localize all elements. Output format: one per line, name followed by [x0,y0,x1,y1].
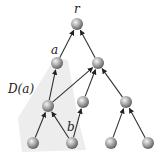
node-n5 [120,96,132,108]
diagram-svg: r a b D(a) [0,0,160,160]
edge-l3-n5 [113,109,124,138]
node-n2 [92,57,104,69]
node-n3 [42,100,54,112]
edge-l4-n5 [129,108,145,138]
node-b [66,137,78,149]
edge-n2-r [80,30,95,58]
node-n4 [77,96,89,108]
dag-diagram: r a b D(a) [0,0,160,160]
node-l4 [142,137,154,149]
edge-n4-n2 [85,70,95,97]
node-l1 [27,137,39,149]
node-label-a: a [51,43,58,57]
node-r [71,18,83,30]
edge-a-r [60,30,74,57]
node-a [51,57,63,69]
node-label-r: r [74,2,81,16]
node-label-b: b [67,120,75,134]
edge-n5-n2 [102,69,122,97]
region-label: D(a) [7,82,34,96]
node-l3 [105,137,117,149]
